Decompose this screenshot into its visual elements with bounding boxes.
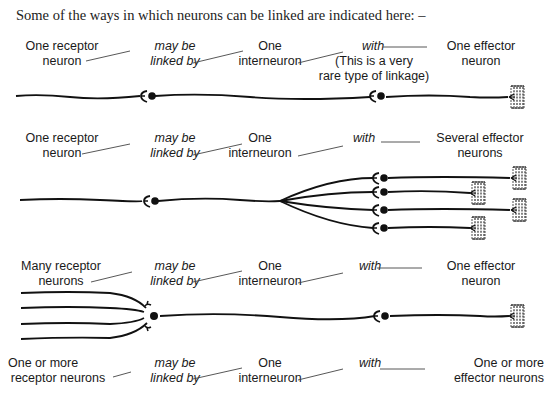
row2-synapse-4-icon bbox=[373, 205, 388, 216]
row1-neuron-chain bbox=[16, 95, 508, 99]
row2-effector-2-icon bbox=[470, 182, 485, 204]
neuron-linkage-diagram: Some of the ways in which neurons can be… bbox=[0, 0, 544, 393]
row3-synapse-2-icon bbox=[374, 311, 389, 322]
row2-synapse-2-icon bbox=[373, 173, 388, 184]
row2-neuron-chain bbox=[20, 177, 510, 228]
row2-synapse-1-icon bbox=[144, 196, 159, 207]
neuron-drawings bbox=[0, 0, 544, 393]
row2-synapse-5-icon bbox=[373, 223, 388, 234]
row3-effector-icon bbox=[509, 305, 524, 327]
row2-synapse-3-icon bbox=[373, 187, 388, 198]
row2-effector-4-icon bbox=[470, 217, 485, 239]
row2-effector-3-icon bbox=[511, 199, 526, 221]
row1-synapse-2-icon bbox=[370, 91, 385, 102]
row3-cell-body-icon bbox=[150, 312, 158, 320]
row1-synapse-1-icon bbox=[141, 91, 156, 102]
row1-effector-icon bbox=[509, 86, 524, 108]
row2-effector-1-icon bbox=[511, 167, 526, 189]
row3-neuron-chain bbox=[21, 292, 509, 339]
